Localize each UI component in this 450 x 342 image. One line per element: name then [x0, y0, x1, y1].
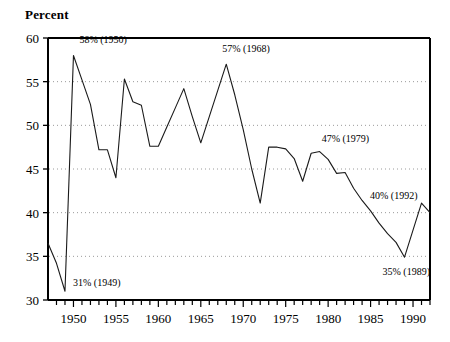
annotation-label: 47% (1979) [322, 133, 370, 145]
x-tick-label: 1955 [103, 311, 129, 326]
y-tick-label: 55 [26, 75, 39, 90]
annotation-label: 31% (1949) [73, 277, 121, 289]
y-tick-label: 50 [26, 118, 39, 133]
x-tick-label: 1970 [230, 311, 256, 326]
y-tick-label: 35 [26, 249, 39, 264]
x-tick-label: 1960 [145, 311, 171, 326]
y-tick-label: 60 [26, 31, 39, 46]
x-tick-label: 1990 [400, 311, 426, 326]
x-tick-label: 1950 [60, 311, 86, 326]
annotation-label: 40% (1992) [370, 190, 418, 202]
annotation-label: 35% (1989) [383, 266, 431, 278]
y-tick-label: 30 [26, 293, 39, 308]
x-tick-label: 1965 [188, 311, 214, 326]
annotation-label: 57% (1968) [222, 43, 270, 55]
x-tick-label: 1980 [315, 311, 341, 326]
x-tick-label: 1985 [358, 311, 384, 326]
annotation-label: 58% (1950) [79, 34, 127, 46]
chart-canvas: 3035404550556019501955196019651970197519… [0, 0, 450, 342]
y-tick-label: 40 [26, 206, 39, 221]
line-chart: Percent 30354045505560195019551960196519… [0, 0, 450, 342]
x-tick-label: 1975 [273, 311, 299, 326]
y-tick-label: 45 [26, 162, 39, 177]
